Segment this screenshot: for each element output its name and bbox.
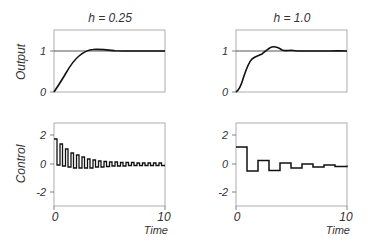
- control-steps-h025: [54, 139, 165, 168]
- xtick-10: 10: [157, 210, 171, 224]
- panel-output-h025: 1 0: [40, 30, 165, 98]
- ytick-0-right: 0: [222, 86, 229, 98]
- panel-output-h10: 1 0: [222, 30, 347, 98]
- xtick-10-right: 10: [339, 210, 353, 224]
- ytick-0: 0: [40, 86, 47, 98]
- ytick-2-right: 2: [221, 129, 228, 141]
- panel-control-h10: 2 0 -2 0 10 Time: [218, 123, 353, 236]
- xlabel-time-right: Time: [326, 224, 350, 236]
- ytick-m2-right: -2: [218, 186, 228, 198]
- xlabel-time: Time: [144, 224, 168, 236]
- panel-control-h025: 2 0 -2 0 10 Time: [36, 123, 171, 236]
- ylabel-output: Output: [14, 43, 28, 80]
- output-curve-h10: [236, 47, 347, 92]
- ytick-0-ctrl: 0: [40, 158, 47, 170]
- ytick-1: 1: [40, 45, 46, 57]
- ytick-2: 2: [39, 129, 46, 141]
- control-steps-h10: [236, 147, 347, 171]
- output-curve-h025: [54, 49, 165, 92]
- ytick-0-ctrl-right: 0: [222, 158, 229, 170]
- ylabel-control: Control: [14, 144, 28, 183]
- ytick-m2: -2: [36, 186, 46, 198]
- xtick-0-right: 0: [234, 210, 241, 224]
- figure: h = 0.25 h = 1.0 Output Control 1 0 1 0 …: [0, 0, 368, 245]
- xtick-0: 0: [52, 210, 59, 224]
- ytick-1-right: 1: [222, 45, 228, 57]
- title-h025: h = 0.25: [88, 11, 132, 25]
- title-h10: h = 1.0: [273, 11, 310, 25]
